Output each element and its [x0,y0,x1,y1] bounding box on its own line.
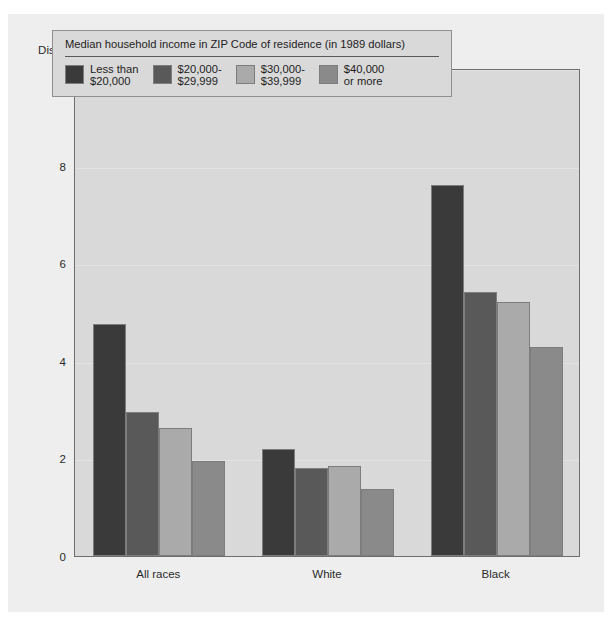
y-axis-tick-label: 4 [10,356,66,368]
y-axis-tick-label: 2 [10,453,66,465]
bar [361,489,394,556]
legend-title: Median household income in ZIP Code of r… [65,38,439,56]
y-axis-tick-label: 0 [10,551,66,563]
bar [431,185,464,556]
chart-figure: Discharges per 1,000 population 0246810 … [0,0,612,637]
legend-swatch [65,65,84,84]
legend-label-line1: $40,000 [344,63,384,75]
legend-label: Less than$20,000 [90,64,139,87]
y-axis-tick-label: 6 [10,258,66,270]
gridline [75,265,579,266]
legend-item[interactable]: $20,000-$29,999 [153,64,222,87]
legend-swatch [236,65,255,84]
x-axis-category-label: White [312,568,341,580]
legend-swatch [319,65,338,84]
chart-legend: Median household income in ZIP Code of r… [52,30,452,97]
bar [192,461,225,556]
legend-label: $20,000-$29,999 [178,64,222,87]
plot-area [74,69,580,557]
legend-label-line2: $39,999 [261,76,305,88]
legend-item[interactable]: $40,000or more [319,64,384,87]
bar [159,428,192,556]
x-axis-category-label: Black [482,568,510,580]
legend-label: $40,000or more [344,64,384,87]
legend-label: $30,000-$39,999 [261,64,305,87]
legend-swatch [153,65,172,84]
gridline [75,168,579,169]
legend-divider [65,56,439,57]
y-axis-tick-label: 8 [10,161,66,173]
x-axis-category-labels: All racesWhiteBlack [74,568,580,588]
legend-label-line1: Less than [90,63,139,75]
bar [328,466,361,556]
legend-item[interactable]: Less than$20,000 [65,64,139,87]
legend-item[interactable]: $30,000-$39,999 [236,64,305,87]
bar [295,468,328,556]
legend-item-list: Less than$20,000$20,000-$29,999$30,000-$… [65,64,439,87]
legend-label-line2: or more [344,76,384,88]
bar [262,449,295,556]
bar [126,412,159,556]
legend-label-line2: $29,999 [178,76,222,88]
bar [497,302,530,556]
bar [93,324,126,556]
figure-panel: Discharges per 1,000 population 0246810 … [8,14,604,612]
y-axis-tick-labels: 0246810 [8,69,66,557]
x-axis-category-label: All races [136,568,180,580]
bar [464,292,497,556]
bar [530,347,563,556]
legend-label-line1: $30,000- [261,63,305,75]
legend-label-line2: $20,000 [90,76,139,88]
legend-label-line1: $20,000- [178,63,222,75]
